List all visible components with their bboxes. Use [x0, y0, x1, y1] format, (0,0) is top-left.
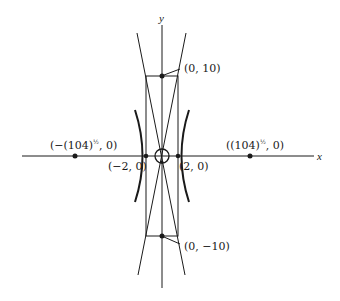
label-right-focus: ((104)½, 0) [226, 138, 284, 152]
label-bottom: (0, −10) [184, 240, 230, 253]
point-bottom [160, 234, 165, 239]
label-top: (0, 10) [184, 62, 221, 75]
label-right-vertex: (2, 0) [179, 160, 209, 173]
point-top [160, 74, 165, 79]
y-axis-label: y [158, 12, 164, 24]
label-left-focus: (−(104)½, 0) [50, 138, 117, 152]
hyperbola-diagram: y x (0, 10) (0, −10) (−2, 0) (2, 0) (−(1… [0, 0, 340, 301]
point-left-focus [73, 154, 78, 159]
point-right-vertex [176, 154, 181, 159]
point-right-focus [248, 154, 253, 159]
label-left-vertex: (−2, 0) [108, 160, 147, 173]
point-left-vertex [144, 154, 149, 159]
x-axis-label: x [316, 150, 322, 162]
point-center [161, 161, 164, 164]
